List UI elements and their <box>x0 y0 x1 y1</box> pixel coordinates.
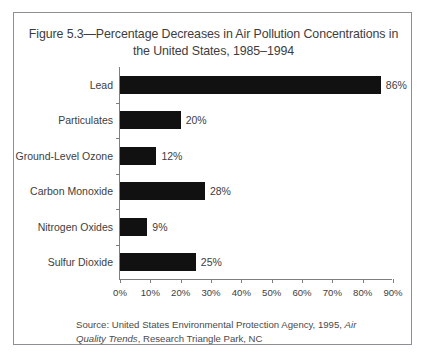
x-axis-tick-label: 90% <box>383 287 402 298</box>
x-axis-tick-label: 20% <box>171 287 190 298</box>
category-label: Particulates <box>58 114 113 126</box>
x-axis-tick-label: 60% <box>292 287 311 298</box>
source-prefix: Source: United States Environmental Prot… <box>76 319 345 330</box>
category-label: Lead <box>90 79 113 91</box>
figure-frame: Figure 5.3—Percentage Decreases in Air P… <box>13 12 412 345</box>
bar-row: Nitrogen Oxides9% <box>120 209 392 245</box>
bar-chart: Lead86%Particulates20%Ground-Level Ozone… <box>14 67 413 297</box>
bar-value-label: 86% <box>386 79 407 91</box>
bar-value-label: 9% <box>152 221 167 233</box>
x-axis-tick <box>332 279 333 283</box>
x-axis-tick-label: 40% <box>232 287 251 298</box>
bar-row: Sulfur Dioxide25% <box>120 245 392 281</box>
category-label: Nitrogen Oxides <box>38 221 113 233</box>
x-axis-tick <box>272 279 273 283</box>
bar <box>120 76 381 94</box>
x-axis-tick <box>302 279 303 283</box>
category-label: Carbon Monoxide <box>30 185 113 197</box>
bar <box>120 111 181 129</box>
x-axis-tick <box>120 279 121 283</box>
bar <box>120 218 147 236</box>
bar-row: Particulates20% <box>120 103 392 139</box>
x-axis-tick <box>363 279 364 283</box>
bar-value-label: 25% <box>201 256 222 268</box>
x-axis-tick-label: 80% <box>353 287 372 298</box>
x-axis-tick-label: 50% <box>262 287 281 298</box>
bar-row: Lead86% <box>120 67 392 103</box>
bar <box>120 147 156 165</box>
bar <box>120 182 205 200</box>
source-suffix: , Research Triangle Park, NC <box>138 333 263 344</box>
bar-row: Carbon Monoxide28% <box>120 174 392 210</box>
x-axis-tick <box>181 279 182 283</box>
x-axis-tick-label: 70% <box>323 287 342 298</box>
x-axis-tick-label: 30% <box>201 287 220 298</box>
plot-area: Lead86%Particulates20%Ground-Level Ozone… <box>119 67 392 280</box>
category-label: Sulfur Dioxide <box>48 256 113 268</box>
category-label: Ground-Level Ozone <box>16 150 113 162</box>
x-axis-tick-label: 0% <box>113 287 127 298</box>
x-axis-tick-label: 10% <box>141 287 160 298</box>
bar <box>120 253 196 271</box>
bar-value-label: 28% <box>210 185 231 197</box>
x-axis-tick <box>211 279 212 283</box>
figure-title: Figure 5.3—Percentage Decreases in Air P… <box>28 26 399 60</box>
x-axis-tick <box>241 279 242 283</box>
x-axis-tick <box>150 279 151 283</box>
x-axis-tick <box>393 279 394 283</box>
source-note: Source: United States Environmental Prot… <box>76 318 386 346</box>
bar-value-label: 20% <box>186 114 207 126</box>
bar-row: Ground-Level Ozone12% <box>120 138 392 174</box>
bar-value-label: 12% <box>161 150 182 162</box>
